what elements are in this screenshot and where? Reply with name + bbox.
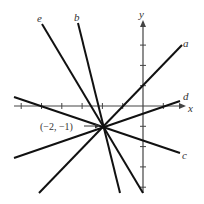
line-label-e: e — [37, 12, 42, 24]
lines — [14, 23, 182, 193]
point-label: (−2, −1) — [40, 121, 73, 133]
line-a — [39, 45, 182, 193]
y-axis-label: y — [138, 8, 144, 20]
x-axis-arrow-icon — [179, 103, 186, 109]
line-b — [78, 23, 120, 193]
line-label-c: c — [182, 149, 187, 161]
line-d — [14, 101, 180, 158]
line-e — [42, 24, 143, 193]
coordinate-plane: x y a b c d e (−2, −1) — [0, 0, 204, 204]
y-axis-arrow-icon — [140, 20, 146, 27]
line-label-b: b — [74, 11, 80, 23]
line-label-d: d — [183, 90, 189, 102]
line-label-a: a — [183, 37, 189, 49]
diagram-canvas: x y a b c d e (−2, −1) — [0, 0, 204, 204]
x-axis-label: x — [187, 102, 193, 114]
axis-ticks — [21, 45, 163, 187]
